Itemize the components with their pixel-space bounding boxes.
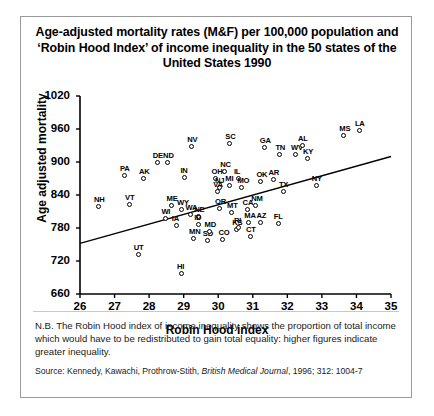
data-point-md[interactable] bbox=[207, 229, 212, 234]
data-point-label-fl: FL bbox=[274, 212, 283, 221]
chart-source: Source: Kennedy, Kawachi, Prothrow-Stith… bbox=[35, 365, 397, 377]
data-point-label-va: VA bbox=[213, 180, 223, 189]
data-point-label-ct: CT bbox=[246, 225, 256, 234]
data-point-label-id: ID bbox=[194, 213, 201, 222]
y-tick-label-660: 660 bbox=[30, 287, 70, 299]
data-point-label-tn: TN bbox=[275, 143, 285, 152]
data-point-label-nh: NH bbox=[94, 195, 105, 204]
data-point-label-il: IL bbox=[234, 167, 240, 176]
data-point-ny[interactable] bbox=[314, 183, 319, 188]
source-suffix: , 1996; 312: 1004-7 bbox=[288, 366, 363, 376]
source-journal: British Medical Journal bbox=[202, 366, 288, 376]
data-point-nv[interactable] bbox=[189, 144, 194, 149]
y-axis-title: Age adjusted mortality bbox=[35, 83, 49, 233]
data-point-label-al: AL bbox=[298, 134, 308, 143]
data-point-label-ga: GA bbox=[260, 136, 271, 145]
data-point-wa[interactable] bbox=[188, 212, 193, 217]
data-point-nd[interactable] bbox=[165, 160, 170, 165]
data-point-ar[interactable] bbox=[271, 177, 276, 182]
data-point-label-pa: PA bbox=[120, 164, 130, 173]
data-point-sd[interactable] bbox=[205, 238, 210, 243]
data-point-label-ri: RI bbox=[234, 216, 241, 225]
data-point-ak[interactable] bbox=[141, 176, 146, 181]
data-point-label-ky: KY bbox=[303, 147, 313, 156]
data-point-label-or: OR bbox=[215, 197, 226, 206]
data-point-label-nd: ND bbox=[163, 151, 174, 160]
data-point-nh[interactable] bbox=[96, 204, 101, 209]
data-point-ga[interactable] bbox=[262, 145, 267, 150]
data-point-label-ms: MS bbox=[339, 124, 350, 133]
data-point-label-wi: WI bbox=[161, 207, 170, 216]
figure-panel: Age-adjusted mortality rates (M&F) per 1… bbox=[20, 16, 412, 398]
data-point-label-ar: AR bbox=[269, 168, 280, 177]
data-point-label-ok: OK bbox=[256, 170, 267, 179]
chart-title: Age-adjusted mortality rates (M&F) per 1… bbox=[31, 25, 403, 72]
data-point-label-nm: NM bbox=[251, 194, 262, 203]
plot-area: 6607207808409009601020 26272829303132333… bbox=[21, 73, 413, 305]
data-point-label-az: AZ bbox=[256, 211, 266, 220]
data-point-label-nv: NV bbox=[187, 135, 197, 144]
data-point-label-vt: VT bbox=[125, 193, 134, 202]
data-point-ut[interactable] bbox=[136, 252, 141, 257]
data-point-de[interactable] bbox=[155, 160, 160, 165]
data-point-mt[interactable] bbox=[229, 210, 234, 215]
data-point-ri[interactable] bbox=[236, 225, 241, 230]
data-point-wv[interactable] bbox=[293, 152, 298, 157]
source-prefix: Source: Kennedy, Kawachi, Prothrow-Stith… bbox=[35, 366, 202, 376]
data-point-mn[interactable] bbox=[191, 236, 196, 241]
data-point-nc[interactable] bbox=[222, 169, 227, 174]
y-tick-label-720: 720 bbox=[30, 254, 70, 266]
data-point-label-sc: SC bbox=[225, 132, 235, 141]
data-point-label-in: IN bbox=[180, 166, 187, 175]
data-point-label-hi: HI bbox=[177, 262, 184, 271]
data-point-me[interactable] bbox=[169, 203, 174, 208]
data-point-label-ak: AK bbox=[139, 167, 150, 176]
data-point-la[interactable] bbox=[357, 128, 362, 133]
data-point-ia[interactable] bbox=[174, 223, 179, 228]
data-point-label-de: DE bbox=[153, 151, 163, 160]
data-point-label-la: LA bbox=[355, 119, 365, 128]
data-point-label-ut: UT bbox=[134, 243, 144, 252]
data-point-label-mt: MT bbox=[227, 201, 238, 210]
data-point-label-me: ME bbox=[167, 194, 178, 203]
data-point-label-mo: MO bbox=[237, 176, 249, 185]
data-point-label-ny: NY bbox=[312, 174, 322, 183]
data-point-label-tx: TX bbox=[279, 180, 288, 189]
data-point-label-md: MD bbox=[205, 220, 216, 229]
data-point-label-ma: MA bbox=[244, 211, 255, 220]
data-point-label-nc: NC bbox=[220, 160, 231, 169]
footer-divider bbox=[33, 311, 399, 312]
chart-note: N.B. The Robin Hood index of income ineq… bbox=[35, 319, 397, 359]
data-point-label-co: CO bbox=[218, 228, 229, 237]
data-point-label-mn: MN bbox=[189, 227, 200, 236]
data-point-label-mi: MI bbox=[225, 174, 233, 183]
data-point-wy[interactable] bbox=[179, 207, 184, 212]
data-point-fl[interactable] bbox=[276, 221, 281, 226]
data-point-ms[interactable] bbox=[341, 133, 346, 138]
data-point-label-ia: IA bbox=[172, 214, 179, 223]
data-point-tx[interactable] bbox=[281, 189, 286, 194]
